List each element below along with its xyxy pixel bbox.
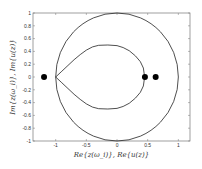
y-axis-label: Im{z(ω_i)}, Im{u(z)} [9, 39, 17, 115]
y-tick-label: 0.8 [24, 23, 31, 29]
y-tick-label: 0 [28, 74, 31, 80]
data-point-marker [41, 74, 47, 80]
chart: -1-0.500.51-1-0.8-0.6-0.4-0.200.20.40.60… [0, 0, 202, 169]
y-tick-label: 1 [28, 10, 31, 16]
y-tick-label: 0.6 [24, 35, 31, 41]
x-tick-label: 1 [177, 142, 180, 148]
plot-frame [33, 13, 190, 141]
x-tick-label: -0.5 [82, 142, 91, 148]
y-tick-label: -0.2 [22, 87, 31, 93]
y-tick-label: -0.6 [22, 112, 31, 118]
x-axis-label: Re{z(ω_i)}, Re{u(z)} [73, 151, 149, 159]
data-point-marker [142, 74, 148, 80]
data-point-marker [153, 74, 159, 80]
x-tick-label: 0.5 [144, 142, 151, 148]
y-tick-label: 0.4 [24, 48, 31, 54]
x-tick-label: 0 [116, 142, 119, 148]
y-tick-label: 0.2 [24, 61, 31, 67]
y-tick-label: -0.8 [22, 125, 31, 131]
x-tick-label: -1 [53, 142, 58, 148]
y-tick-label: -1 [27, 138, 32, 144]
y-tick-label: -0.4 [22, 99, 31, 105]
